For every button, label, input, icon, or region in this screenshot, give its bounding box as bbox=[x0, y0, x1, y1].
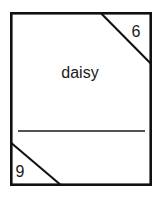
diagram-canvas: daisy 6 9 bbox=[0, 0, 162, 199]
center-label: daisy bbox=[61, 64, 98, 81]
diagram-svg: daisy 6 9 bbox=[0, 0, 162, 199]
top-right-corner-label: 6 bbox=[132, 23, 141, 40]
bottom-left-corner-label: 9 bbox=[16, 163, 25, 180]
outer-rectangle bbox=[11, 13, 150, 184]
